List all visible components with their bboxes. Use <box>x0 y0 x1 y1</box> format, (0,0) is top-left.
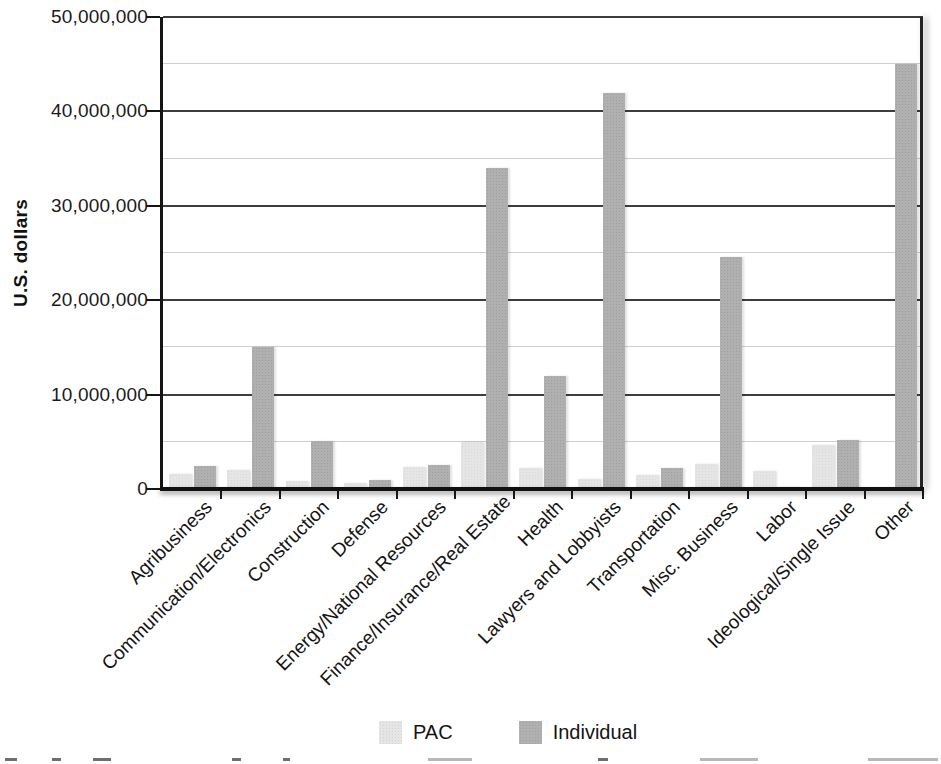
bar-individual <box>603 93 625 489</box>
legend: PAC Individual <box>379 721 637 744</box>
bar-individual <box>311 441 333 489</box>
legend-swatch-pac <box>379 721 402 744</box>
bar-individual <box>895 64 917 489</box>
bar-group <box>338 17 396 489</box>
legend-swatch-individual <box>519 721 542 744</box>
y-tick-label: 50,000,000 <box>30 6 148 28</box>
bar-pac <box>519 468 541 489</box>
bar-pac <box>403 467 425 489</box>
x-axis-tick <box>864 490 866 499</box>
bar-group <box>631 17 689 489</box>
x-axis-tick <box>688 490 690 499</box>
y-tick-mark <box>146 16 160 18</box>
bar-individual <box>194 466 216 489</box>
bar-pac <box>695 464 717 489</box>
x-axis-tick <box>279 490 281 499</box>
x-axis-tick <box>922 490 924 499</box>
clipped-caption-fragment <box>232 758 241 761</box>
bar-group <box>572 17 630 489</box>
clipped-caption-fragment <box>598 758 608 761</box>
x-axis-tick <box>454 490 456 499</box>
clipped-caption-fragment <box>93 758 111 761</box>
y-tick-mark <box>146 488 160 490</box>
x-axis-tick <box>630 490 632 499</box>
bar-group <box>865 17 923 489</box>
y-tick-mark <box>146 205 160 207</box>
bar-group <box>221 17 279 489</box>
bar-individual <box>252 347 274 489</box>
bar-individual <box>544 376 566 489</box>
bar-group <box>163 17 221 489</box>
bar-individual <box>720 257 742 489</box>
bar-group <box>514 17 572 489</box>
clipped-caption-fragment <box>868 758 938 761</box>
figure: U.S. dollars 010,000,00020,000,00030,000… <box>0 0 941 764</box>
bar-pac <box>461 442 483 489</box>
clipped-caption-fragment <box>283 758 290 761</box>
legend-label-pac: PAC <box>413 721 453 744</box>
plot-area <box>160 17 923 489</box>
x-axis-tick <box>513 490 515 499</box>
bar-individual <box>661 468 683 489</box>
y-axis-title: U.S. dollars <box>10 199 32 307</box>
y-tick-label: 40,000,000 <box>30 100 148 122</box>
plot-right-frame <box>920 17 923 489</box>
x-axis-tick <box>337 490 339 499</box>
y-tick-label: 10,000,000 <box>30 384 148 406</box>
bar-individual <box>486 168 508 489</box>
y-tick-label: 20,000,000 <box>30 289 148 311</box>
clipped-caption-fragment <box>52 758 61 761</box>
y-tick-mark <box>146 394 160 396</box>
x-axis-tick <box>571 490 573 499</box>
bar-group <box>806 17 864 489</box>
x-axis-line <box>160 487 924 491</box>
bar-group <box>689 17 747 489</box>
clipped-caption-fragment <box>5 758 17 761</box>
bar-group <box>455 17 513 489</box>
bar-pac <box>812 445 834 489</box>
y-tick-label: 30,000,000 <box>30 195 148 217</box>
legend-label-individual: Individual <box>553 721 638 744</box>
y-tick-label: 0 <box>30 478 148 500</box>
bar-group <box>397 17 455 489</box>
y-tick-mark <box>146 110 160 112</box>
x-axis-tick <box>747 490 749 499</box>
x-axis-tick <box>396 490 398 499</box>
clipped-caption-fragment <box>700 758 758 761</box>
bar-individual <box>428 465 450 489</box>
bar-group <box>748 17 806 489</box>
y-tick-mark <box>146 299 160 301</box>
clipped-caption-fragment <box>428 758 472 761</box>
x-axis-tick <box>220 490 222 499</box>
bar-group <box>280 17 338 489</box>
x-axis-tick <box>805 490 807 499</box>
bar-individual <box>837 440 859 489</box>
